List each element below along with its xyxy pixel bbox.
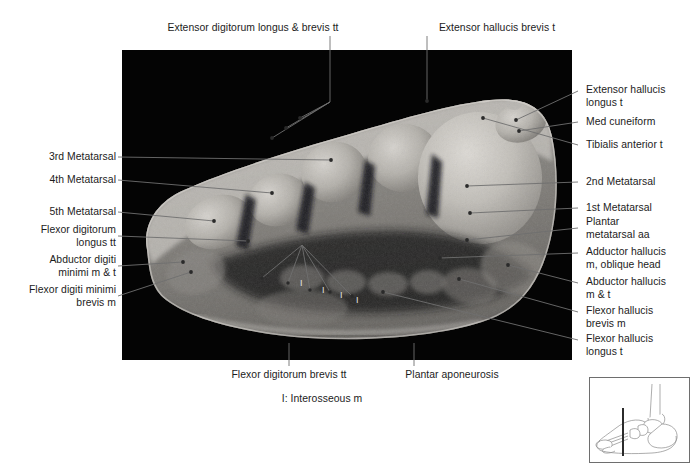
label-abductor-digiti-minimi: Abductor digiti minimi m & t: [0, 254, 116, 279]
label-adductor-hallucis-oblique-head: Adductor hallucis m, oblique head: [586, 246, 693, 271]
label-2nd-metatarsal: 2nd Metatarsal: [586, 176, 693, 189]
label-abductor-hallucis: Abductor hallucis m & t: [586, 276, 693, 301]
label-flexor-hallucis-brevis: Flexor hallucis brevis m: [586, 305, 693, 330]
label-tibialis-anterior: Tibialis anterior t: [586, 139, 693, 152]
svg-text:I: I: [322, 285, 325, 295]
svg-text:I: I: [300, 278, 303, 288]
foot-lateral-skeleton-diagram: [590, 378, 689, 462]
label-flexor-digitorum-longus: Flexor digitorum longus tt: [0, 224, 116, 249]
label-4th-metatarsal: 4th Metatarsal: [0, 174, 116, 187]
anatomical-cross-section-image: I I I I: [122, 50, 572, 360]
svg-text:I: I: [340, 290, 343, 300]
label-flexor-digitorum-brevis: Flexor digitorum brevis tt: [199, 369, 379, 382]
label-med-cuneiform: Med cuneiform: [586, 116, 693, 129]
label-extensor-hallucis-longus: Extensor hallucis longus t: [586, 84, 693, 109]
foot-orientation-inset: [589, 377, 690, 463]
label-5th-metatarsal: 5th Metatarsal: [0, 206, 116, 219]
label-flexor-digiti-minimi-brevis: Flexor digiti minimi brevis m: [0, 284, 116, 309]
label-3rd-metatarsal: 3rd Metatarsal: [0, 151, 116, 164]
svg-text:I: I: [356, 295, 359, 305]
figure-plate-container: I I I I: [0, 0, 693, 466]
specimen-photograph: I I I I: [122, 50, 572, 360]
label-flexor-hallucis-longus: Flexor hallucis longus t: [586, 333, 693, 358]
label-extensor-hallucis-brevis: Extensor hallucis brevis t: [405, 22, 589, 35]
label-extensor-digitorum-longus-brevis: Extensor digitorum longus & brevis tt: [125, 22, 381, 35]
caption-interosseous-key: I: Interosseous m: [242, 393, 402, 406]
label-1st-metatarsal: 1st Metatarsal: [586, 202, 693, 215]
label-plantar-aponeurosis: Plantar aponeurosis: [382, 369, 522, 382]
label-plantar-metatarsal-aa: Plantar metatarsal aa: [586, 216, 693, 241]
